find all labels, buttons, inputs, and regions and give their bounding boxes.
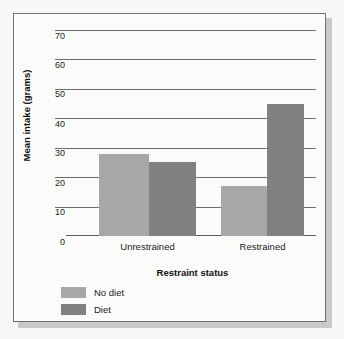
y-tick-label-10: 10 xyxy=(55,208,65,217)
y-tick-label-50: 50 xyxy=(55,90,65,99)
y-tick-label-70: 70 xyxy=(55,32,65,41)
x-axis-title: Restraint status xyxy=(69,267,316,278)
bar-no-diet-unrestrained xyxy=(99,154,149,236)
x-tick-label-restrained: Restrained xyxy=(240,241,286,252)
legend-item-diet: Diet xyxy=(61,301,124,318)
legend-swatch-icon xyxy=(61,304,86,315)
bar-no-diet-restrained xyxy=(221,186,267,236)
chart-legend: No dietDiet xyxy=(61,284,124,318)
legend-label: No diet xyxy=(94,288,124,298)
y-axis-title: Mean intake (grams) xyxy=(21,41,32,191)
x-tick-label-unrestrained: Unrestrained xyxy=(120,241,174,252)
legend-label: Diet xyxy=(94,305,111,315)
legend-swatch-icon xyxy=(61,287,86,298)
gridline-60 xyxy=(69,59,316,60)
bar-chart-plot-area: 010203040506070UnrestrainedRestrained xyxy=(69,30,316,236)
y-tick-label-60: 60 xyxy=(55,61,65,70)
bar-diet-restrained xyxy=(267,104,304,236)
gridline-50 xyxy=(69,89,316,90)
legend-item-no-diet: No diet xyxy=(61,284,124,301)
gridline-70 xyxy=(69,30,316,31)
y-tick-label-40: 40 xyxy=(55,120,65,129)
y-tick-label-0: 0 xyxy=(60,238,65,247)
bar-diet-unrestrained xyxy=(149,162,196,236)
y-tick-label-30: 30 xyxy=(55,149,65,158)
y-tick-label-20: 20 xyxy=(55,179,65,188)
figure-frame: 010203040506070UnrestrainedRestrained Me… xyxy=(13,13,326,322)
